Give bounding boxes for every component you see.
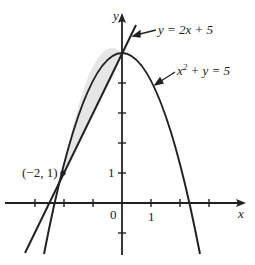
graph-canvas: y x 0 1 1 (−2, 1) y = 2x + 5 x2 + y = 5 — [0, 0, 255, 265]
y-tick-label: 1 — [108, 165, 115, 180]
parabola-equation-label: x2 + y = 5 — [176, 62, 231, 78]
line-equation-label: y = 2x + 5 — [156, 22, 214, 37]
y-axis-label: y — [111, 8, 119, 23]
origin-label: 0 — [110, 207, 117, 222]
label-arrows — [133, 30, 175, 85]
x-tick-label: 1 — [148, 209, 155, 224]
shaded-region — [63, 48, 122, 173]
intersection-label: (−2, 1) — [22, 165, 58, 180]
x-axis-label: x — [237, 206, 244, 221]
intersection-point — [60, 170, 65, 175]
line-curve — [25, 25, 136, 253]
